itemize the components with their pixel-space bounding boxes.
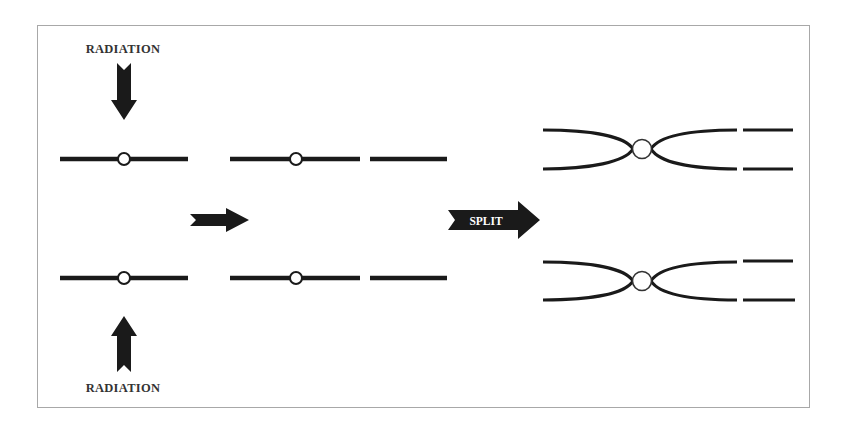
intact-chromosome-bottom bbox=[60, 272, 188, 284]
chromosome-radiation-diagram: RADIATION RADIATION SPLIT bbox=[0, 0, 846, 428]
split-arrow: SPLIT bbox=[448, 201, 540, 239]
transition-arrow-icon bbox=[190, 208, 249, 232]
radiation-label-bottom: RADIATION bbox=[86, 381, 161, 395]
replicated-chromosome-bottom bbox=[543, 261, 795, 300]
replicated-chromosome-top bbox=[543, 130, 793, 169]
broken-chromosome-bottom bbox=[230, 272, 447, 284]
intact-chromosome-top bbox=[60, 153, 188, 165]
split-label: SPLIT bbox=[469, 215, 503, 227]
radiation-arrow-up-icon bbox=[111, 316, 137, 372]
radiation-arrow-down-icon bbox=[111, 63, 137, 120]
broken-chromosome-top bbox=[230, 153, 447, 165]
radiation-label-top: RADIATION bbox=[86, 42, 161, 56]
